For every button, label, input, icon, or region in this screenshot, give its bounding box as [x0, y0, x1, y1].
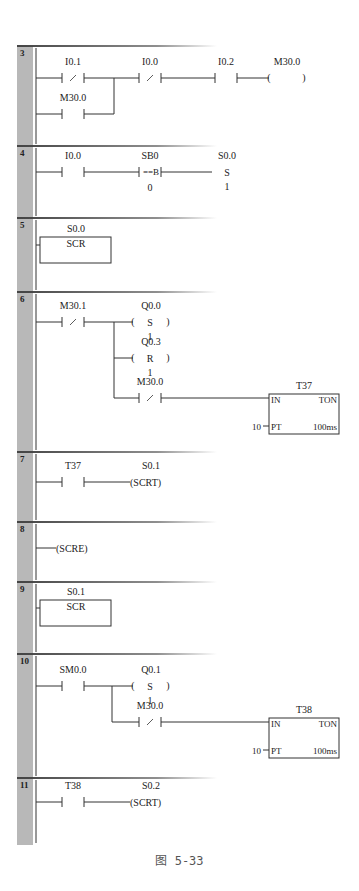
svg-text:M30.0: M30.0 — [274, 56, 300, 67]
network-gutter — [17, 654, 33, 778]
coil-m300: M30.0() — [267, 56, 305, 84]
svg-text:SCR: SCR — [67, 601, 86, 612]
network-separator — [17, 451, 217, 453]
svg-text:100ms: 100ms — [313, 422, 338, 432]
scr-box-s00: S0.0SCR — [36, 223, 111, 263]
network-separator — [17, 45, 217, 47]
nc-contact-i00: I0.0 — [139, 56, 161, 83]
svg-text:I0.2: I0.2 — [218, 56, 234, 67]
network-gutter — [17, 292, 33, 452]
network-6: 6M30.1Q0.0()S1Q0.3()R1M30.0T37INTONPT100… — [17, 291, 339, 452]
timer-t38: T38INTONPT100ms10 — [252, 704, 339, 758]
svg-text:S: S — [147, 317, 153, 328]
network-number: 3 — [20, 48, 25, 58]
svg-text:10: 10 — [252, 422, 262, 432]
svg-text:100ms: 100ms — [313, 746, 338, 756]
svg-text:): ) — [302, 72, 305, 84]
scre-coil-scre: (SCRE) — [56, 543, 88, 555]
network-8: 8(SCRE) — [17, 521, 217, 582]
svg-text:1: 1 — [225, 181, 230, 192]
svg-text:S: S — [147, 681, 153, 692]
svg-text:I0.0: I0.0 — [65, 150, 81, 161]
network-number: 11 — [20, 780, 29, 790]
set-text-s00: S0.0S1 — [218, 150, 236, 192]
network-number: 5 — [20, 220, 25, 230]
svg-text:PT: PT — [271, 422, 282, 432]
network-separator — [17, 653, 217, 655]
no-contact-m300: M30.0 — [60, 92, 86, 119]
network-7: 7T37S0.1(SCRT) — [17, 451, 217, 522]
svg-text:M30.0: M30.0 — [137, 376, 163, 387]
svg-text:S0.0: S0.0 — [67, 223, 85, 234]
network-3: 3I0.1M30.0I0.0I0.2M30.0() — [17, 45, 306, 146]
svg-text:Q0.3: Q0.3 — [141, 336, 161, 347]
svg-text:S0.1: S0.1 — [142, 460, 160, 471]
compare-contact-sb0: SB0==B0 — [139, 150, 161, 193]
svg-text:Q0.0: Q0.0 — [141, 300, 161, 311]
timer-t37: T37INTONPT100ms10 — [252, 380, 339, 434]
network-number: 8 — [20, 524, 25, 534]
svg-text:R: R — [147, 353, 154, 364]
nc-contact-m301: M30.1 — [60, 300, 86, 327]
svg-text:TON: TON — [319, 395, 338, 405]
svg-text:M30.0: M30.0 — [60, 92, 86, 103]
svg-text:(SCRT): (SCRT) — [130, 477, 161, 489]
svg-text:M30.1: M30.1 — [60, 300, 86, 311]
no-contact-sm00: SM0.0 — [60, 664, 87, 691]
no-contact-t38: T38 — [62, 780, 84, 807]
svg-text:IN: IN — [271, 395, 281, 405]
scrt-coil-s01: S0.1(SCRT) — [130, 460, 161, 489]
network-separator — [17, 521, 217, 523]
network-number: 4 — [20, 148, 25, 158]
svg-text:T37: T37 — [296, 380, 312, 391]
nc-contact-m300: M30.0 — [137, 700, 163, 727]
svg-text:PT: PT — [271, 746, 282, 756]
network-5: 5S0.0SCR — [17, 217, 217, 292]
svg-text:Q0.1: Q0.1 — [141, 664, 161, 675]
network-4: 4I0.0SB0==B0S0.0S1 — [17, 145, 236, 218]
no-contact-t37: T37 — [62, 460, 84, 487]
svg-text:(SCRE): (SCRE) — [56, 543, 88, 555]
network-11: 11T38S0.2(SCRT) — [17, 777, 217, 845]
network-number: 9 — [20, 584, 25, 594]
network-separator — [17, 145, 217, 147]
network-number: 7 — [20, 454, 25, 464]
no-contact-i02: I0.2 — [215, 56, 237, 83]
scrt-coil-s02: S0.2(SCRT) — [130, 780, 161, 809]
svg-text:S: S — [224, 167, 230, 178]
coil-q03: Q0.3()R1 — [131, 336, 169, 378]
svg-text:T37: T37 — [65, 460, 81, 471]
nc-contact-m300: M30.0 — [137, 376, 163, 403]
no-contact-i00: I0.0 — [62, 150, 84, 177]
network-separator — [17, 291, 217, 293]
network-9: 9S0.1SCR — [17, 581, 217, 654]
svg-text:T38: T38 — [296, 704, 312, 715]
svg-text:S0.1: S0.1 — [67, 586, 85, 597]
svg-text:==B: ==B — [143, 167, 159, 177]
svg-text:I0.0: I0.0 — [142, 56, 158, 67]
svg-text:): ) — [166, 680, 169, 692]
svg-text:SB0: SB0 — [141, 150, 158, 161]
network-separator — [17, 777, 217, 779]
network-separator — [17, 217, 217, 219]
svg-text:10: 10 — [252, 746, 262, 756]
scr-box-s01: S0.1SCR — [36, 586, 111, 626]
network-gutter — [17, 46, 33, 146]
svg-text:TON: TON — [319, 719, 338, 729]
svg-text:T38: T38 — [65, 780, 81, 791]
svg-text:S0.0: S0.0 — [218, 150, 236, 161]
svg-text:IN: IN — [271, 719, 281, 729]
network-10: 10SM0.0Q0.1()S1M30.0T38INTONPT100ms10 — [17, 653, 339, 778]
nc-contact-i01: I0.1 — [62, 56, 84, 83]
svg-text:): ) — [166, 316, 169, 328]
svg-text:SM0.0: SM0.0 — [60, 664, 87, 675]
figure-caption: 图 5-33 — [0, 851, 359, 868]
svg-text:S0.2: S0.2 — [142, 780, 160, 791]
svg-text:M30.0: M30.0 — [137, 700, 163, 711]
svg-text:(SCRT): (SCRT) — [130, 797, 161, 809]
svg-text:SCR: SCR — [67, 238, 86, 249]
network-separator — [17, 581, 217, 583]
svg-text:I0.1: I0.1 — [65, 56, 81, 67]
svg-text:0: 0 — [148, 182, 153, 193]
ladder-diagram: 3I0.1M30.0I0.0I0.2M30.0()4I0.0SB0==B0S0.… — [0, 0, 359, 891]
